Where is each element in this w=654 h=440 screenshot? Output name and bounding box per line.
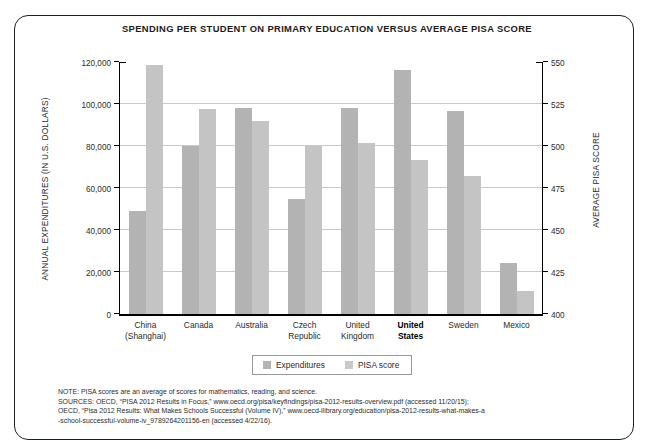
y-axis-left-tick [114, 313, 119, 314]
y-axis-right-tick [543, 187, 548, 188]
y-axis-right-title: AVERAGE PISA SCORE [589, 95, 603, 265]
bar-expenditures [447, 111, 464, 314]
note-line-1: NOTE: PISA scores are an average of scor… [58, 387, 588, 397]
bar-pisa-score [358, 143, 375, 315]
note-line-2: SOURCES: OECD, “PISA 2012 Results in Foc… [58, 397, 588, 407]
bar-pisa-score [411, 160, 428, 315]
axis-top-serif-left [119, 62, 126, 63]
bar-group [129, 62, 163, 314]
legend-item: Expenditures [263, 360, 325, 370]
bar-expenditures [129, 211, 146, 314]
category-label-line: Canada [172, 320, 225, 331]
y-axis-left-tick [114, 271, 119, 272]
y-axis-right-tick [543, 271, 548, 272]
bar-group [500, 62, 534, 314]
legend-item: PISA score [345, 360, 399, 370]
bar-expenditures [500, 263, 517, 315]
y-axis-left-tick [114, 61, 119, 62]
bar-group [288, 62, 322, 314]
category-label-line: China [119, 320, 172, 331]
y-axis-right-tick-label: 450 [551, 226, 565, 235]
plot-area: 020,00040,00060,00080,000100,000120,000 … [119, 62, 543, 316]
y-axis-left-tick [114, 103, 119, 104]
chart-notes: NOTE: PISA scores are an average of scor… [58, 387, 588, 425]
x-axis-category-label: Sweden [437, 320, 490, 331]
y-axis-right-line [542, 62, 543, 316]
y-axis-left-line [119, 62, 120, 316]
y-axis-left-tick [114, 187, 119, 188]
x-axis-line [119, 314, 543, 316]
legend-label: Expenditures [276, 360, 325, 370]
chart-title: SPENDING PER STUDENT ON PRIMARY EDUCATIO… [0, 23, 654, 34]
bar-expenditures [394, 70, 411, 314]
y-axis-left-tick-label: 40,000 [86, 226, 111, 235]
bar-pisa-score [252, 121, 269, 315]
chart-legend: ExpendituresPISA score [252, 355, 412, 375]
y-axis-right-tick [543, 61, 548, 62]
x-axis-category-label: CzechRepublic [278, 320, 331, 343]
category-label-line: United [384, 320, 437, 331]
bar-group [341, 62, 375, 314]
y-axis-left-tick-label: 60,000 [86, 184, 111, 193]
note-line-3: OECD, “Pisa 2012 Results: What Makes Sch… [58, 406, 588, 416]
bar-expenditures [288, 199, 305, 315]
x-axis-category-label: Australia [225, 320, 278, 331]
bar-expenditures [235, 108, 252, 314]
x-axis-category-labels: China(Shanghai)CanadaAustraliaCzechRepub… [119, 320, 543, 354]
y-axis-right-tick-label: 400 [551, 310, 565, 319]
bar-pisa-score [199, 109, 216, 314]
bar-group [394, 62, 428, 314]
bar-pisa-score [305, 146, 322, 314]
note-line-4: -school-successful-volume-iv_97892642011… [58, 416, 588, 426]
category-label-line: Mexico [490, 320, 543, 331]
legend-swatch-icon [345, 361, 353, 369]
y-axis-left-tick-label: 120,000 [81, 58, 111, 67]
y-axis-left-tick-label: 20,000 [86, 268, 111, 277]
y-axis-right-tick [543, 145, 548, 146]
y-axis-left-title-text: ANNUAL EXPENDITURES (IN U.S. DOLLARS) [40, 97, 50, 280]
y-axis-left-tick-label: 100,000 [81, 100, 111, 109]
legend-swatch-icon [263, 361, 271, 369]
y-axis-right-tick-label: 475 [551, 184, 565, 193]
x-axis-category-label: Mexico [490, 320, 543, 331]
axis-top-serif-right [536, 62, 543, 63]
y-axis-right-tick-label: 425 [551, 268, 565, 277]
category-label-line: Kingdom [331, 331, 384, 342]
y-axis-right-tick [543, 103, 548, 104]
y-axis-left-tick-label: 80,000 [86, 142, 111, 151]
legend-label: PISA score [358, 360, 399, 370]
x-axis-category-label: UnitedKingdom [331, 320, 384, 343]
category-label-line: Republic [278, 331, 331, 342]
y-axis-left-title: ANNUAL EXPENDITURES (IN U.S. DOLLARS) [38, 62, 52, 316]
bar-group [235, 62, 269, 314]
y-axis-left-tick [114, 145, 119, 146]
bar-group [182, 62, 216, 314]
y-axis-right-tick-label: 500 [551, 142, 565, 151]
y-axis-right-tick [543, 313, 548, 314]
y-axis-right-title-text: AVERAGE PISA SCORE [591, 132, 601, 228]
bar-pisa-score [517, 291, 534, 315]
bar-expenditures [182, 146, 199, 314]
category-label-line: United [331, 320, 384, 331]
bar-expenditures [341, 108, 358, 314]
category-label-line: States [384, 331, 437, 342]
category-label-line: Sweden [437, 320, 490, 331]
y-axis-right-tick [543, 229, 548, 230]
category-label-line: Czech [278, 320, 331, 331]
category-label-line: Australia [225, 320, 278, 331]
y-axis-right-tick-label: 550 [551, 58, 565, 67]
bar-group [447, 62, 481, 314]
bar-pisa-score [464, 176, 481, 314]
bar-pisa-score [146, 65, 163, 314]
x-axis-category-label: China(Shanghai) [119, 320, 172, 343]
x-axis-category-label: UnitedStates [384, 320, 437, 343]
x-axis-category-label: Canada [172, 320, 225, 331]
y-axis-left-tick-label: 0 [106, 310, 111, 319]
y-axis-right-tick-label: 525 [551, 100, 565, 109]
y-axis-left-tick [114, 229, 119, 230]
category-label-line: (Shanghai) [119, 331, 172, 342]
